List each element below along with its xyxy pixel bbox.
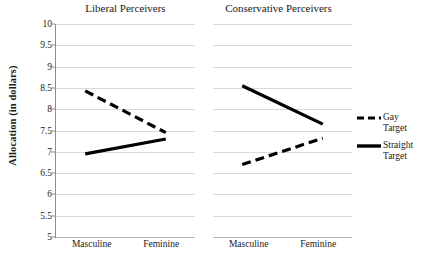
legend-item-gay-target: GayTarget [357, 112, 429, 133]
series-line-straight-target [242, 86, 323, 124]
panel-title: Conservative Perceivers [209, 2, 348, 14]
panel-liberal-perceivers: Liberal Perceivers Masculine Feminine [56, 24, 195, 237]
chart-figure: Allocation (in dollars) 109.598.587.576.… [0, 0, 429, 258]
solid-line-icon [357, 141, 381, 151]
y-tick-mark [51, 66, 55, 67]
legend-label-line1: Straight [383, 140, 413, 150]
legend-label-line2: Target [383, 123, 407, 133]
x-tick-feminine: Feminine [300, 239, 336, 249]
gridline [213, 237, 352, 238]
legend-item-straight-target: StraightTarget [357, 140, 429, 161]
y-axis-title: Allocation (in dollars) [7, 26, 18, 206]
y-tick-mark [51, 215, 55, 216]
y-tick-mark [51, 45, 55, 46]
panel-title: Liberal Perceivers [56, 2, 195, 14]
legend-label: StraightTarget [383, 140, 413, 161]
x-axis-tick-labels: Masculine Feminine [56, 239, 195, 249]
panel-series-lines [56, 24, 195, 237]
y-tick-mark [51, 87, 55, 88]
legend-label-line1: Gay [383, 112, 399, 122]
y-axis-tick-labels: 109.598.587.576.565.55 [24, 0, 52, 258]
series-line-straight-target [85, 139, 166, 154]
y-tick-mark [51, 151, 55, 152]
chart-legend: GayTarget StraightTarget [357, 112, 429, 168]
x-tick-masculine: Masculine [72, 239, 112, 249]
gridline [56, 237, 195, 238]
series-line-gay-target [85, 91, 166, 133]
x-tick-masculine: Masculine [229, 239, 269, 249]
legend-label: GayTarget [383, 112, 407, 133]
y-tick-mark [51, 109, 55, 110]
legend-label-line2: Target [383, 151, 407, 161]
x-tick-feminine: Feminine [143, 239, 179, 249]
series-line-gay-target [242, 138, 323, 164]
y-tick-mark [51, 130, 55, 131]
y-tick-mark [51, 24, 55, 25]
panel-conservative-perceivers: Conservative Perceivers Masculine Femini… [213, 24, 352, 237]
x-axis-tick-labels: Masculine Feminine [213, 239, 352, 249]
dashed-line-icon [357, 113, 381, 123]
y-tick-mark [51, 194, 55, 195]
y-tick-mark [51, 237, 55, 238]
y-tick-mark [51, 173, 55, 174]
panel-series-lines [213, 24, 352, 237]
